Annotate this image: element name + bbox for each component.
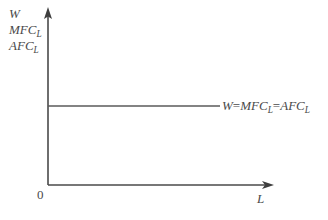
y-axis-label-w: W	[9, 7, 42, 23]
y-axis-label-afc: AFCL	[9, 39, 42, 55]
wage-line-annotation: W=MFCL=AFCL	[222, 99, 310, 115]
annotation-w: W	[222, 98, 233, 113]
x-axis-label: L	[257, 192, 264, 205]
y-axis-label-mfc: MFCL	[9, 23, 42, 39]
annotation-afc-subscript: L	[305, 105, 310, 115]
annotation-mfc: MFC	[240, 98, 267, 113]
y-axis-label-stack: W MFCL AFCL	[9, 7, 42, 55]
annotation-afc: AFC	[280, 98, 305, 113]
labor-market-chart: W MFCL AFCL 0 L W=MFCL=AFCL	[0, 0, 328, 220]
origin-label: 0	[37, 188, 44, 201]
